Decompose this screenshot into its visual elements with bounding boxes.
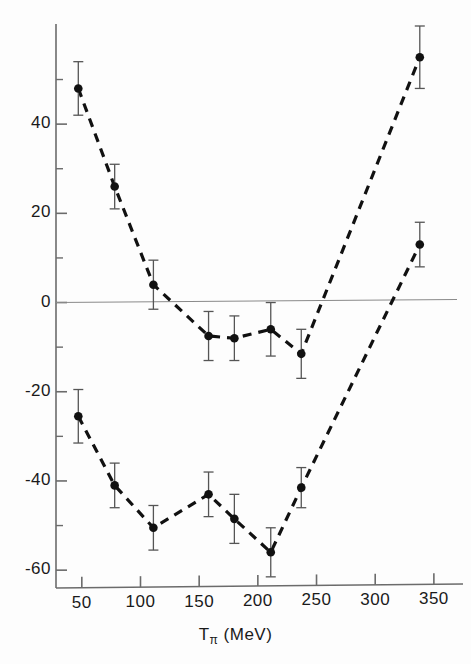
data-point-marker bbox=[230, 334, 239, 343]
plot-area bbox=[0, 0, 471, 664]
series-im bbox=[73, 222, 424, 577]
data-point-marker bbox=[110, 481, 119, 490]
data-point-marker bbox=[74, 412, 83, 421]
y-tick-label-0: 0 bbox=[41, 292, 51, 312]
y-tick-label-40: 40 bbox=[31, 113, 51, 133]
series-dashed-line-1 bbox=[78, 245, 419, 553]
x-axis-title: Tπ (MeV) bbox=[0, 625, 471, 647]
data-point-marker bbox=[266, 548, 275, 557]
figure-chart-vsp: 40200-20-40-60 50100150200250300350 Re V… bbox=[0, 0, 471, 664]
x-tick-label-250: 250 bbox=[287, 590, 347, 610]
x-axis-title-base: T bbox=[199, 625, 210, 644]
y-tick-label-neg60: -60 bbox=[25, 559, 51, 579]
x-tick-label-150: 150 bbox=[169, 592, 229, 612]
data-point-marker bbox=[230, 515, 239, 524]
x-tick-label-50: 50 bbox=[52, 593, 112, 613]
series-dashed-line-0 bbox=[78, 57, 419, 354]
data-point-marker bbox=[266, 325, 275, 334]
series-re bbox=[73, 26, 424, 378]
x-axis-title-units: (MeV) bbox=[224, 625, 273, 644]
x-tick-label-300: 300 bbox=[345, 590, 405, 610]
x-tick-label-200: 200 bbox=[228, 591, 288, 611]
x-axis-title-subscript: π bbox=[210, 633, 219, 647]
data-point-marker bbox=[297, 350, 306, 359]
zero-line bbox=[56, 300, 457, 303]
data-point-marker bbox=[415, 240, 424, 249]
axes-layer bbox=[56, 24, 463, 588]
y-tick-label-20: 20 bbox=[31, 202, 51, 222]
data-point-marker bbox=[415, 53, 424, 62]
data-point-marker bbox=[149, 523, 158, 532]
zero-reference-line bbox=[56, 300, 457, 303]
data-point-marker bbox=[204, 490, 213, 499]
data-point-marker bbox=[297, 483, 306, 492]
x-tick-label-350: 350 bbox=[404, 589, 464, 609]
data-point-marker bbox=[74, 84, 83, 93]
y-tick-label-neg40: -40 bbox=[25, 470, 51, 490]
x-tick-label-100: 100 bbox=[110, 592, 170, 612]
data-point-marker bbox=[110, 182, 119, 191]
data-point-marker bbox=[204, 332, 213, 341]
x-axis-spine bbox=[56, 584, 463, 588]
y-tick-label-neg20: -20 bbox=[25, 381, 51, 401]
data-point-marker bbox=[149, 280, 158, 289]
